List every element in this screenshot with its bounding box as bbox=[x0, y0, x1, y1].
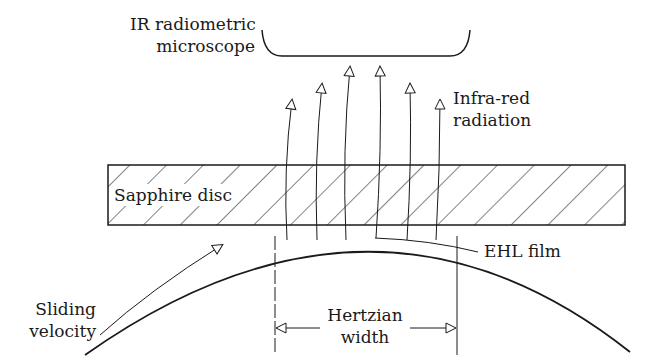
sliding-velocity-arrow bbox=[100, 245, 222, 335]
ehl-film-leader bbox=[375, 238, 478, 252]
radiation-label: Infra-red radiation bbox=[453, 87, 531, 131]
radiation-label-line2: radiation bbox=[453, 109, 531, 131]
radiation-label-line1: Infra-red bbox=[453, 87, 531, 109]
sliding-label-line1: Sliding bbox=[10, 298, 96, 320]
microscope-label: IR radiometric microscope bbox=[130, 13, 255, 57]
sliding-velocity-label: Sliding velocity bbox=[10, 298, 96, 342]
hertzian-width-label: Hertzian width bbox=[320, 304, 410, 348]
microscope-label-line2: microscope bbox=[130, 35, 255, 57]
microscope-icon bbox=[262, 30, 470, 56]
microscope-label-line1: IR radiometric bbox=[130, 13, 255, 35]
sliding-label-line2: velocity bbox=[10, 320, 96, 342]
ehl-film-label: EHL film bbox=[484, 240, 561, 262]
hertzian-label-line2: width bbox=[320, 326, 410, 348]
hertzian-label-line1: Hertzian bbox=[320, 304, 410, 326]
disc-label: Sapphire disc bbox=[114, 184, 234, 206]
